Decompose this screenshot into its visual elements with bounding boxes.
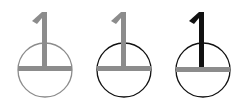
symbol-black-circle <box>97 12 151 97</box>
symbol-gray <box>18 12 72 97</box>
symbol-canvas <box>0 0 247 110</box>
digit-one-stem <box>199 12 204 67</box>
digit-one-stem <box>121 12 126 69</box>
horizontal-bar <box>176 67 230 72</box>
symbol-black-digit <box>176 12 230 97</box>
digit-one-stem <box>42 12 47 69</box>
